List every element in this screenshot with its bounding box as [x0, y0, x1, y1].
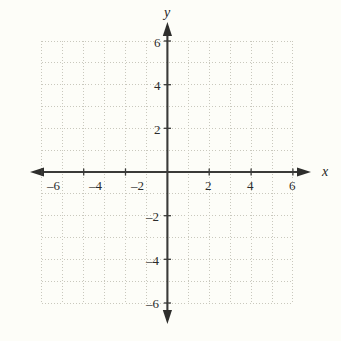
coordinate-grid-canvas [0, 0, 341, 341]
y-tick-label-neg6: –6 [146, 297, 159, 310]
x-tick-label-neg6: –6 [47, 179, 60, 192]
x-tick-label-pos6: 6 [289, 179, 296, 192]
y-axis-label: y [164, 6, 170, 20]
x-tick-label-neg2: –2 [131, 179, 144, 192]
figure-background [0, 0, 341, 341]
y-tick-label-pos2: 2 [154, 123, 161, 136]
y-tick-label-pos4: 4 [154, 79, 161, 92]
y-tick-label-neg2: –2 [146, 210, 159, 223]
x-axis-label: x [322, 165, 328, 179]
y-tick-label-pos6: 6 [154, 36, 161, 49]
x-tick-label-pos4: 4 [247, 179, 254, 192]
x-tick-label-neg4: –4 [89, 179, 102, 192]
coordinate-plane-figure: –6 –4 –2 2 4 6 6 4 2 –2 –4 –6 y x [0, 0, 341, 341]
y-tick-label-neg4: –4 [146, 254, 159, 267]
x-tick-label-pos2: 2 [205, 179, 212, 192]
